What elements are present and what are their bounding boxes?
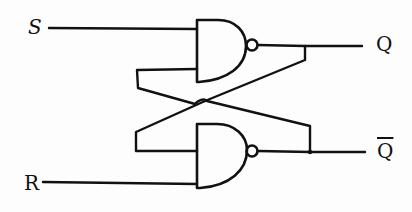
qbar-feedback-to-top xyxy=(137,69,310,152)
input-label-r: R xyxy=(24,173,39,193)
nand-gate-top xyxy=(197,20,246,82)
q-output-wire xyxy=(258,45,362,46)
nand-gate-bottom xyxy=(197,124,247,188)
junction-dot xyxy=(308,150,312,154)
inversion-bubble-top xyxy=(247,40,258,51)
output-label-q-bar: Q xyxy=(377,141,393,161)
circuit-drawing xyxy=(0,0,412,212)
q-feedback-to-bottom xyxy=(136,101,205,151)
q-feedback-wire xyxy=(205,46,305,101)
s-input-wire xyxy=(49,28,197,29)
input-label-s: S xyxy=(28,17,42,37)
r-input-wire xyxy=(43,182,197,184)
sr-latch-diagram: S R Q Q xyxy=(0,0,412,212)
output-label-q: Q xyxy=(376,34,392,54)
